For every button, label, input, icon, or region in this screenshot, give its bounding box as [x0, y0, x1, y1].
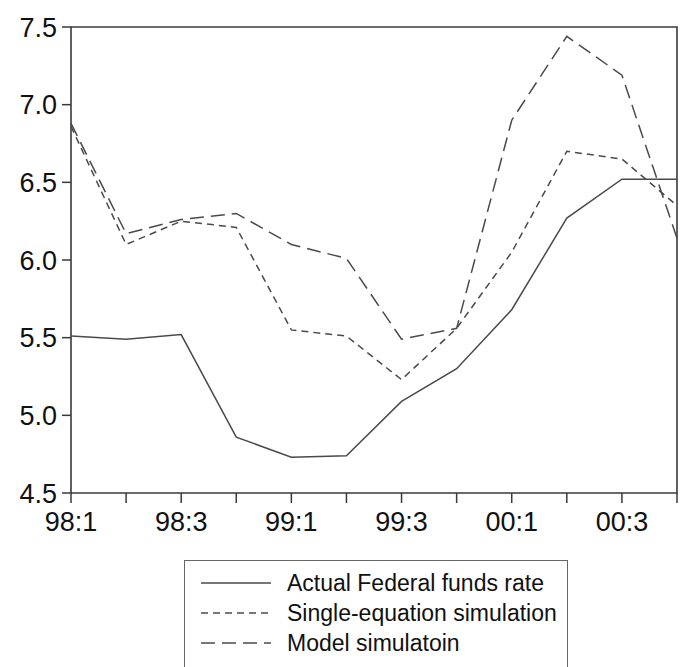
plot-frame: [71, 27, 677, 493]
legend-swatch-dashed-icon: [199, 636, 273, 650]
y-tick-label: 7.0: [19, 90, 57, 120]
x-tick-label: 00:3: [596, 507, 649, 537]
chart-page: 4.55.05.56.06.57.07.5 98:198:399:199:300…: [0, 0, 698, 667]
y-tick-label: 7.5: [19, 13, 57, 43]
x-axis-tick-labels: 98:198:399:199:300:100:3: [45, 507, 648, 537]
legend-swatch-solid-icon: [199, 576, 273, 590]
series-line-dotted: [71, 126, 677, 379]
chart-legend: Actual Federal funds rate Single-equatio…: [184, 560, 568, 667]
legend-item-actual-federal-funds-rate: Actual Federal funds rate: [199, 568, 553, 598]
chart-series-group: [71, 36, 677, 457]
legend-item-single-equation-simulation: Single-equation simulation: [199, 598, 553, 628]
y-tick-label: 5.5: [19, 323, 57, 353]
y-tick-label: 4.5: [19, 479, 57, 509]
x-tick-label: 99:1: [265, 507, 318, 537]
chart-tick-marks: [62, 27, 677, 503]
legend-item-model-simulation: Model simulatoin: [199, 628, 553, 658]
x-tick-label: 00:1: [485, 507, 538, 537]
legend-label: Actual Federal funds rate: [287, 572, 544, 595]
series-line-solid: [71, 179, 677, 457]
x-tick-label: 98:3: [155, 507, 208, 537]
legend-swatch-dotted-icon: [199, 606, 273, 620]
x-tick-label: 99:3: [375, 507, 428, 537]
chart-figure: 4.55.05.56.06.57.07.5 98:198:399:199:300…: [0, 0, 698, 667]
chart-axes: [71, 27, 677, 493]
y-tick-label: 6.5: [19, 168, 57, 198]
series-line-dashed: [71, 36, 677, 339]
y-tick-label: 5.0: [19, 401, 57, 431]
y-tick-label: 6.0: [19, 246, 57, 276]
legend-label: Model simulatoin: [287, 632, 460, 655]
y-axis-tick-labels: 4.55.05.56.06.57.07.5: [19, 13, 57, 509]
legend-label: Single-equation simulation: [287, 602, 557, 625]
x-tick-label: 98:1: [45, 507, 98, 537]
